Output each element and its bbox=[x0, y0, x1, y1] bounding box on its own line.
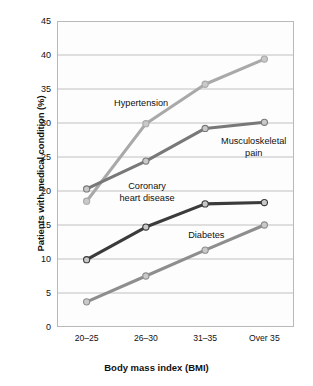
chart-container: Patients with medical condition (%) 0510… bbox=[0, 0, 313, 386]
series-annotation: Musculoskeletal pain bbox=[221, 136, 286, 159]
x-tick-label: Over 35 bbox=[249, 333, 280, 343]
series-annotation: Hypertension bbox=[114, 98, 168, 110]
y-tick-label: 25 bbox=[5, 152, 51, 162]
series-annotation: Diabetes bbox=[188, 230, 224, 242]
y-tick-label: 20 bbox=[5, 186, 51, 196]
y-tick-label: 35 bbox=[5, 84, 51, 94]
plot-area bbox=[57, 21, 294, 327]
x-axis-title: Body mass index (BMI) bbox=[0, 362, 313, 373]
y-tick-label: 40 bbox=[5, 50, 51, 60]
y-tick-label: 5 bbox=[5, 288, 51, 298]
series-annotation: Coronary heart disease bbox=[119, 181, 174, 204]
x-tick-label: 20–25 bbox=[75, 333, 99, 343]
y-tick-label: 10 bbox=[5, 254, 51, 264]
x-tick-label: 31–35 bbox=[193, 333, 217, 343]
y-tick-label: 30 bbox=[5, 118, 51, 128]
y-tick-label: 0 bbox=[5, 322, 51, 332]
y-tick-label: 15 bbox=[5, 220, 51, 230]
x-tick-label: 26–30 bbox=[134, 333, 158, 343]
y-tick-label: 45 bbox=[5, 16, 51, 26]
